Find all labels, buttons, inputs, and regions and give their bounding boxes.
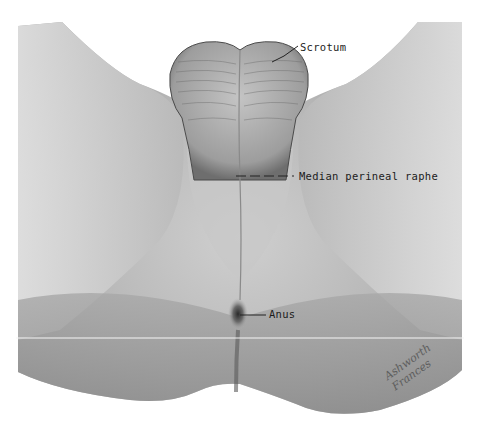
scrotum-label: Scrotum — [300, 41, 346, 53]
intergluteal-cleft — [236, 330, 238, 392]
median-perineal-raphe-label: Median perineal raphe — [299, 170, 438, 182]
anus-shape — [228, 298, 248, 330]
illustration-stage: Scrotum Median perineal raphe Anus Ashwo… — [0, 0, 480, 438]
anus-label: Anus — [269, 308, 296, 320]
